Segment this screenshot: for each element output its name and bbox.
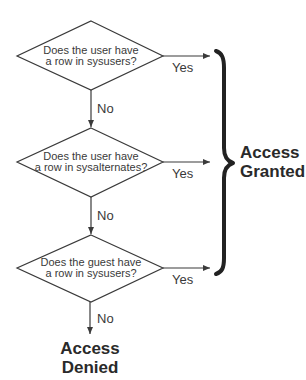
decision-3-line2: a row in sysusers? <box>21 268 161 279</box>
decision-1-text: Does the user have a row in sysusers? <box>21 45 161 67</box>
denied-line2: Denied <box>50 358 130 377</box>
no-label-2: No <box>97 209 114 222</box>
yes-label-1: Yes <box>172 61 193 74</box>
decision-2-text: Does the user have a row in sysalternate… <box>21 151 161 173</box>
denied-line1: Access <box>50 339 130 358</box>
curly-brace-icon <box>216 51 233 274</box>
outcome-access-granted: Access Granted <box>240 143 305 181</box>
decision-2-line2: a row in sysalternates? <box>21 162 161 173</box>
decision-1-line2: a row in sysusers? <box>21 56 161 67</box>
no-label-1: No <box>97 102 114 115</box>
outcome-access-denied: Access Denied <box>50 339 130 377</box>
granted-line2: Granted <box>240 162 305 181</box>
yes-label-2: Yes <box>172 167 193 180</box>
granted-line1: Access <box>240 143 305 162</box>
no-label-3: No <box>97 312 114 325</box>
decision-3-text: Does the guest have a row in sysusers? <box>21 257 161 279</box>
yes-label-3: Yes <box>172 273 193 286</box>
